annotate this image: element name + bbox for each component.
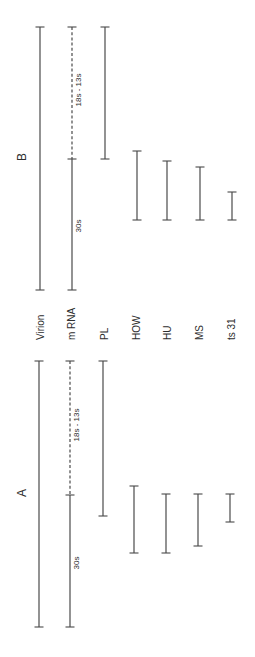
bar-pl (99, 361, 108, 516)
row-labels: Virionm RNAPLHOWHUMSts 31 (35, 307, 237, 340)
bar-ts31 (228, 192, 237, 220)
bar-ms (196, 167, 205, 220)
bar-ts31 (226, 494, 235, 522)
bar-virion (36, 27, 45, 290)
bar-hu (162, 494, 171, 553)
bar-mrna: 18s - 13s30s (66, 361, 82, 627)
bar-virion (35, 361, 44, 627)
bar-mrna: 18s - 13s30s (68, 27, 84, 290)
panel-label: B (15, 153, 29, 161)
row-label-virion: Virion (35, 315, 46, 340)
row-label-mrna: m RNA (66, 307, 77, 340)
row-label-how: HOW (131, 315, 142, 340)
segment-size-label: 18s - 13s (72, 409, 81, 442)
row-label-hu: HU (162, 326, 173, 340)
segment-size-label: 18s - 13s (74, 74, 83, 107)
panel-label: A (15, 489, 29, 497)
bar-how (130, 486, 139, 553)
panel-A: A18s - 13s30s (15, 361, 235, 627)
segment-size-label: 30s (74, 220, 83, 233)
bar-hu (163, 161, 172, 220)
bar-ms (194, 494, 203, 546)
bar-how (133, 151, 142, 220)
row-label-ts31: ts 31 (226, 318, 237, 340)
segment-size-label: 30s (72, 557, 81, 570)
row-label-ms: MS (194, 325, 205, 340)
genome-map-diagram: B18s - 13s30sA18s - 13s30s Virionm RNAPL… (0, 0, 255, 657)
bar-pl (101, 27, 110, 159)
row-label-pl: PL (99, 327, 110, 340)
panel-B: B18s - 13s30s (15, 27, 237, 290)
